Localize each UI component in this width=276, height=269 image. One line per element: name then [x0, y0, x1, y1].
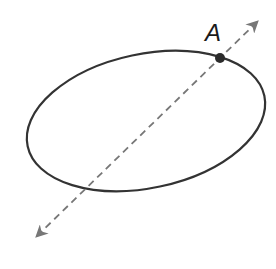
dashed-line-with-arrows [37, 22, 257, 236]
diagram-canvas: A [0, 0, 276, 269]
diagram-svg [0, 0, 276, 269]
point-a-marker [215, 53, 225, 63]
ellipse-shape [14, 30, 276, 211]
point-a-label: A [205, 21, 221, 45]
